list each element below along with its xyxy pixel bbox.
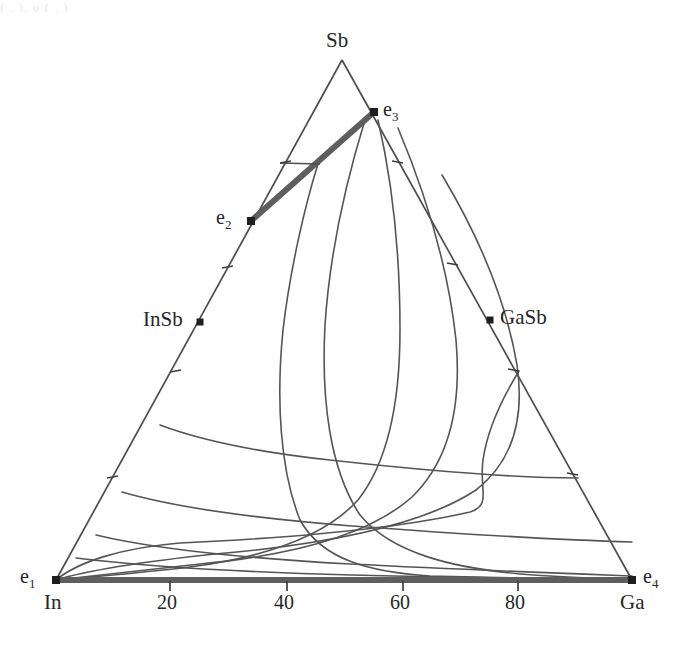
point-label-e3-sub: 3 xyxy=(392,109,399,124)
point-label-e4: e4 xyxy=(643,566,658,590)
marker-e2 xyxy=(247,217,255,225)
isotherm-isotherm-3 xyxy=(56,120,400,580)
marker-InSb xyxy=(197,319,204,326)
tick-right-4 xyxy=(567,473,578,475)
isotherm-isotherm-1 xyxy=(280,164,632,580)
tick-label-40: 40 xyxy=(274,592,294,612)
isotherm-isotherm-9 xyxy=(96,535,632,576)
tick-label-20: 20 xyxy=(157,592,177,612)
bold-boundary-group xyxy=(56,112,632,580)
diagram-canvas xyxy=(0,0,682,650)
isotherm-isotherm-5 xyxy=(56,175,519,580)
isotherm-isotherm-7 xyxy=(160,425,578,478)
marker-GaSb xyxy=(487,317,494,324)
point-label-e4-sub: 4 xyxy=(652,576,659,591)
tick-left-1 xyxy=(222,266,233,268)
marker-e3 xyxy=(370,108,378,116)
isotherm-isotherm-2 xyxy=(324,120,632,580)
marker-e1 xyxy=(52,576,60,584)
isotherm-contour-group xyxy=(56,120,632,580)
axis-tick-group xyxy=(107,161,578,591)
join-segment-InSb-GaSb xyxy=(280,163,320,164)
point-label-e2: e2 xyxy=(216,207,231,231)
vertex-label-Sb: Sb xyxy=(326,30,348,51)
point-label-e1-base: e xyxy=(20,565,29,587)
point-label-e3-base: e xyxy=(383,98,392,120)
compound-label-InSb: InSb xyxy=(143,309,183,330)
tick-label-60: 60 xyxy=(390,592,410,612)
isotherm-isotherm-8 xyxy=(122,492,632,542)
tick-label-80: 80 xyxy=(505,592,525,612)
corner-label-Ga: Ga xyxy=(620,592,645,613)
tick-right-1 xyxy=(392,161,403,163)
point-label-e2-base: e xyxy=(216,206,225,228)
point-label-e2-sub: 2 xyxy=(225,217,232,232)
ternary-phase-diagram-figure: ( , ), g ( , ) xyxy=(0,0,682,650)
isotherm-isotherm-4 xyxy=(56,128,457,580)
point-label-e1: e1 xyxy=(20,566,35,590)
point-label-e3: e3 xyxy=(383,99,398,123)
point-label-e1-sub: 1 xyxy=(29,576,36,591)
tick-left-3 xyxy=(107,476,118,478)
marker-e4 xyxy=(628,576,636,584)
boundary-e2-e3 xyxy=(251,112,374,221)
compound-label-GaSb: GaSb xyxy=(500,307,547,328)
point-label-e4-base: e xyxy=(643,565,652,587)
corner-label-In: In xyxy=(44,592,62,613)
